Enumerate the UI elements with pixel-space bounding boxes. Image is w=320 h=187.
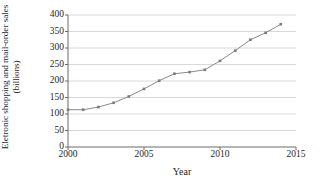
data-point-marker bbox=[67, 108, 70, 111]
data-point-marker bbox=[143, 88, 146, 91]
data-point-marker bbox=[82, 108, 85, 111]
data-point-marker bbox=[158, 79, 161, 82]
data-point-marker bbox=[204, 68, 207, 71]
data-point-marker bbox=[173, 72, 176, 75]
data-point-marker bbox=[249, 38, 252, 41]
x-axis-title: Year bbox=[68, 166, 296, 177]
data-point-marker bbox=[234, 49, 237, 52]
x-tick-label: 2010 bbox=[200, 150, 240, 160]
data-point-marker bbox=[264, 32, 267, 35]
data-point-marker bbox=[188, 71, 191, 74]
data-point-marker bbox=[97, 106, 100, 109]
data-point-marker bbox=[280, 23, 283, 26]
data-point-marker bbox=[128, 95, 131, 98]
x-tick-label: 2005 bbox=[124, 150, 164, 160]
x-tick-label: 2015 bbox=[276, 150, 316, 160]
data-point-marker bbox=[219, 60, 222, 63]
x-tick-label: 2000 bbox=[48, 150, 88, 160]
chart-figure: Eletronic shopping and mail-order sales … bbox=[0, 0, 320, 187]
data-point-marker bbox=[112, 101, 115, 104]
series-line bbox=[68, 24, 281, 109]
